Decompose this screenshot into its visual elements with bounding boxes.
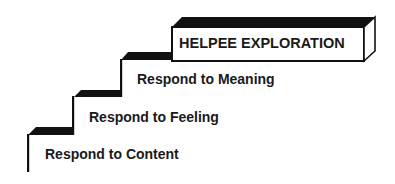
- top-box-top-face: [172, 17, 375, 27]
- step-2-tread: [74, 90, 122, 97]
- step-1-tread: [28, 127, 74, 135]
- step-3-riser: [120, 59, 122, 97]
- step-3-tread: [121, 52, 172, 60]
- step-1-riser: [27, 134, 29, 172]
- step-label-meaning: Respond to Meaning: [137, 71, 275, 87]
- step-label-feeling: Respond to Feeling: [89, 109, 219, 125]
- step-2-riser: [72, 96, 74, 135]
- step-label-content: Respond to Content: [45, 146, 179, 162]
- top-box-label: HELPEE EXPLORATION: [179, 35, 345, 51]
